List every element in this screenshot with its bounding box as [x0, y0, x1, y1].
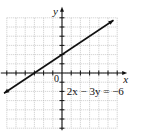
y-axis-arrow: [60, 7, 64, 12]
equation-label: 2x − 3y = −6: [67, 85, 125, 97]
coordinate-plane: x y 0 2x − 3y = −6: [0, 0, 141, 133]
origin-label: 0: [54, 73, 59, 84]
y-axis-label: y: [52, 5, 58, 17]
x-axis-label: x: [122, 73, 128, 85]
